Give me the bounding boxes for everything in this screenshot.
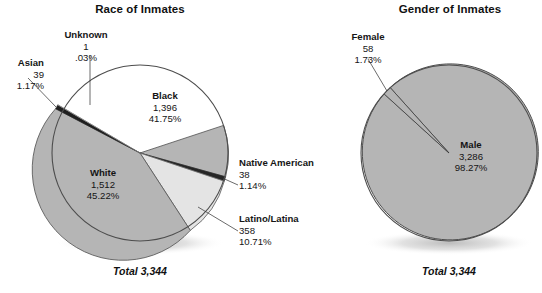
pie-callout-native-american-percent: 1.14% (239, 180, 335, 192)
pie-label-male-title: Male (434, 139, 508, 151)
pie-callout-latino-latina-value: 358 (239, 225, 335, 237)
pie-callout-latino-latina: Latino/Latina 358 10.71% (239, 213, 335, 248)
figure-canvas: Race of Inmates (0, 0, 542, 293)
pie-label-white-title: White (66, 167, 140, 179)
pie-callout-unknown-title: Unknown (54, 29, 118, 41)
pie-callout-asian-value: 39 (0, 69, 44, 81)
total-label-gender: Total 3,344 (399, 265, 499, 277)
chart-title-race: Race of Inmates (64, 3, 216, 15)
pie-label-white-value: 1,512 (66, 179, 140, 191)
pie-label-white: White 1,512 45.22% (66, 167, 140, 202)
pie-label-male: Male 3,286 98.27% (434, 139, 508, 174)
pie-callout-native-american: Native American 38 1.14% (239, 157, 335, 192)
chart-title-gender: Gender of Inmates (371, 3, 529, 15)
pie-callout-latino-latina-title: Latino/Latina (239, 213, 335, 225)
pie-callout-female-percent: 1.73% (337, 54, 399, 66)
pie-callout-unknown-percent: .03% (54, 52, 118, 64)
pie-callout-native-american-title: Native American (239, 157, 335, 169)
pie-callout-native-american-value: 38 (239, 169, 335, 181)
total-label-race: Total 3,344 (90, 265, 190, 277)
pie-callout-unknown-value: 1 (54, 41, 118, 53)
pie-callout-latino-latina-percent: 10.71% (239, 236, 335, 248)
pie-label-male-percent: 98.27% (434, 162, 508, 174)
pie-callout-asian-title: Asian (0, 57, 44, 69)
pie-callout-asian: Asian 39 1.17% (0, 57, 44, 92)
pie-label-black-title: Black (128, 90, 202, 102)
pie-callout-female: Female 58 1.73% (337, 31, 399, 66)
pie-callout-unknown: Unknown 1 .03% (54, 29, 118, 64)
pie-chart-race (20, 45, 260, 265)
leader-line-native-american (225, 179, 238, 185)
pie-callout-asian-percent: 1.17% (0, 80, 44, 92)
pie-callout-female-title: Female (337, 31, 399, 43)
pie-label-male-value: 3,286 (434, 151, 508, 163)
pie-label-black: Black 1,396 41.75% (128, 90, 202, 125)
pie-label-black-value: 1,396 (128, 102, 202, 114)
pie-callout-female-value: 58 (337, 43, 399, 55)
pie-label-black-percent: 41.75% (128, 113, 202, 125)
pie-label-white-percent: 45.22% (66, 190, 140, 202)
